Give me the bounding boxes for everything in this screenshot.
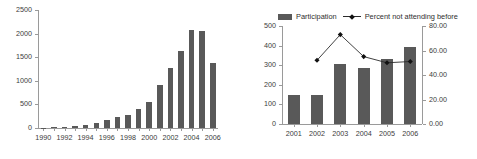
left-x-tick — [139, 129, 140, 131]
left-x-tick — [192, 129, 193, 131]
left-x-tick — [43, 129, 44, 131]
left-x-tick — [107, 129, 108, 131]
left-plot-area: 0500100015002000250019901992199419961998… — [0, 0, 232, 159]
left-bar — [157, 85, 163, 128]
left-x-tick — [75, 129, 76, 131]
left-bar — [146, 102, 152, 128]
line-marker — [408, 59, 413, 64]
left-y-tick-label: 1000 — [0, 77, 32, 85]
left-x-tick — [96, 129, 97, 131]
left-x-tick — [181, 129, 182, 131]
left-y-tick — [35, 57, 38, 58]
left-bar — [168, 68, 174, 128]
left-y-axis — [38, 10, 39, 128]
left-x-tick — [202, 129, 203, 131]
left-x-tick — [117, 129, 118, 131]
left-y-tick-label: 2500 — [0, 6, 32, 14]
left-x-tick — [65, 129, 66, 131]
left-y-tick — [35, 104, 38, 105]
left-y-tick — [35, 128, 38, 129]
left-y-tick-label: 0 — [0, 124, 32, 132]
left-x-tick — [149, 129, 150, 131]
left-bar — [125, 115, 131, 128]
left-bar — [178, 51, 184, 128]
left-chart-panel: 0500100015002000250019901992199419961998… — [0, 0, 232, 159]
left-bar — [210, 63, 216, 128]
percent-not-attending-before-line — [232, 0, 477, 159]
left-bar — [83, 125, 89, 129]
left-y-tick-label: 500 — [0, 100, 32, 108]
left-y-tick-label: 1500 — [0, 53, 32, 61]
left-bar — [72, 126, 78, 128]
left-x-tick — [160, 129, 161, 131]
dual-chart-figure: 0500100015002000250019901992199419961998… — [0, 0, 477, 159]
left-x-tick-label: 2006 — [199, 134, 227, 142]
line-marker — [384, 60, 389, 65]
left-bar — [94, 123, 100, 128]
left-bar — [104, 120, 110, 128]
left-x-tick — [128, 129, 129, 131]
left-y-tick — [35, 81, 38, 82]
left-x-tick — [213, 129, 214, 131]
left-y-tick — [35, 34, 38, 35]
left-y-tick-label: 2000 — [0, 30, 32, 38]
left-x-tick — [170, 129, 171, 131]
left-bar — [189, 30, 195, 128]
left-y-tick — [35, 10, 38, 11]
right-chart-panel: Participation Percent not attending befo… — [232, 0, 477, 159]
left-bar — [62, 127, 68, 128]
left-x-tick — [54, 129, 55, 131]
left-bar — [115, 117, 121, 128]
left-bar — [199, 31, 205, 128]
left-x-tick — [86, 129, 87, 131]
right-plot-area: 01002003004005000.0020.0040.0060.0080.00… — [232, 0, 477, 159]
left-bar — [136, 109, 142, 128]
